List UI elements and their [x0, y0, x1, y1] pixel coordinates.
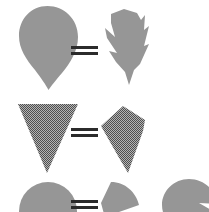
equals-sign-row-3	[71, 200, 98, 209]
equals-bar-top	[71, 46, 98, 49]
shape-teardrop-leaf-lobed	[97, 6, 157, 91]
equivalence-row-3: or	[0, 180, 209, 212]
equals-bar-top	[71, 200, 98, 203]
shape-notched-disc-leaf	[163, 178, 209, 212]
shape-inverted-triangle-entire	[16, 102, 80, 174]
equivalence-row-2	[0, 98, 209, 176]
leaf-equivalence-figure: or	[0, 0, 209, 212]
equivalence-row-1	[0, 0, 209, 95]
equals-bar-bottom	[71, 134, 98, 137]
equals-bar-bottom	[71, 52, 98, 55]
shape-notched-wedge-leaf	[99, 181, 143, 212]
shape-round-disc-leaf	[18, 181, 78, 212]
equals-bar-bottom	[71, 206, 98, 209]
shape-kite-pentagon-leaf	[98, 104, 152, 174]
equals-sign-row-2	[71, 128, 98, 137]
equals-sign-row-1	[71, 46, 98, 55]
equals-bar-top	[71, 128, 98, 131]
